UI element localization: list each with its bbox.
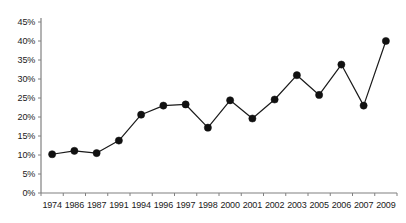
data-point-marker — [382, 37, 389, 44]
x-axis-label: 1996 — [154, 200, 173, 210]
y-axis-label: 35% — [0, 55, 35, 65]
x-axis-label: 1994 — [132, 200, 151, 210]
data-point-marker — [93, 150, 100, 157]
data-point-marker — [138, 111, 145, 118]
chart-plot-area — [0, 0, 406, 223]
data-point-marker — [338, 61, 345, 68]
x-axis-label: 1986 — [65, 200, 84, 210]
x-axis-label: 2003 — [287, 200, 306, 210]
data-point-marker — [182, 101, 189, 108]
y-axis-label: 15% — [0, 131, 35, 141]
x-axis-label: 2007 — [354, 200, 373, 210]
data-point-marker — [271, 96, 278, 103]
data-point-marker — [160, 102, 167, 109]
x-axis-label: 2000 — [221, 200, 240, 210]
y-axis-label: 30% — [0, 74, 35, 84]
x-axis-label: 1987 — [87, 200, 106, 210]
y-axis-label: 0% — [0, 188, 35, 198]
y-axis-label: 25% — [0, 93, 35, 103]
x-axis-label: 1997 — [176, 200, 195, 210]
x-axis-label: 2002 — [265, 200, 284, 210]
x-axis-label: 1998 — [198, 200, 217, 210]
line-chart: 0%5%10%15%20%25%30%35%40%45% 19741986198… — [0, 0, 406, 223]
data-point-marker — [293, 72, 300, 79]
data-line-series — [52, 41, 386, 154]
data-point-marker — [49, 151, 56, 158]
data-point-marker — [204, 124, 211, 131]
x-axis-label: 2006 — [332, 200, 351, 210]
x-axis-label: 2005 — [310, 200, 329, 210]
data-point-marker — [360, 102, 367, 109]
x-axis-label: 2009 — [376, 200, 395, 210]
x-axis-label: 1991 — [109, 200, 128, 210]
data-point-marker — [115, 137, 122, 144]
y-axis-label: 20% — [0, 112, 35, 122]
data-point-marker — [316, 91, 323, 98]
x-axis-label: 1974 — [43, 200, 62, 210]
data-point-marker — [249, 115, 256, 122]
data-point-marker — [227, 97, 234, 104]
y-axis-label: 10% — [0, 150, 35, 160]
y-axis-label: 45% — [0, 17, 35, 27]
y-axis-label: 5% — [0, 169, 35, 179]
y-axis-label: 40% — [0, 36, 35, 46]
x-axis-label: 2001 — [243, 200, 262, 210]
data-point-marker — [71, 147, 78, 154]
